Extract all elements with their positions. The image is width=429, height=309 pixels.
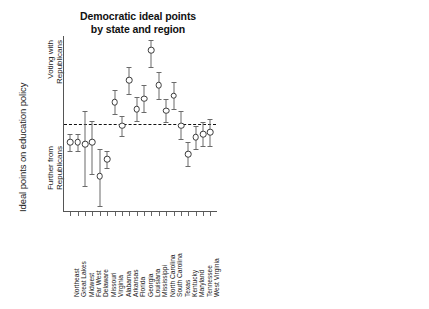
error-bar-cap-top [112, 90, 117, 91]
point-marker [170, 92, 177, 99]
error-bar-cap-bottom [178, 139, 183, 140]
error-bar-cap-bottom [156, 99, 161, 100]
x-axis-label-midwest: Midwest [88, 273, 95, 297]
y-axis-label: Ideal points on education policy [18, 83, 27, 212]
error-bar-cap-top [201, 122, 206, 123]
point-marker [207, 129, 214, 136]
point-marker [89, 139, 96, 146]
x-axis-label-florida: Florida [139, 277, 146, 297]
error-bar-cap-top [156, 72, 161, 73]
x-axis-tick [70, 212, 71, 216]
error-bar-cap-bottom [119, 136, 124, 137]
right-chart-panel: Probability of being pivotal in Senate S… [228, 0, 429, 309]
point-marker [119, 122, 126, 129]
error-bar-cap-bottom [105, 168, 110, 169]
point-marker [185, 151, 192, 158]
error-bar-cap-bottom [201, 146, 206, 147]
error-bar-cap-bottom [164, 122, 169, 123]
error-bar-cap-bottom [171, 109, 176, 110]
error-bar-cap-top [178, 111, 183, 112]
point-marker [74, 139, 81, 146]
x-axis-tick [210, 212, 211, 216]
error-bar-cap-top [90, 121, 95, 122]
x-axis-tick [181, 212, 182, 216]
x-axis-label-arkansas: Arkansas [132, 270, 139, 298]
x-axis-tick [107, 212, 108, 216]
error-bar-cap-bottom [208, 146, 213, 147]
error-bar-cap-bottom [127, 94, 132, 95]
y-axis-caption-bottom-line1: Further from [46, 146, 55, 190]
x-axis-tick [166, 212, 167, 216]
x-axis-label-kentucky: Kentucky [191, 270, 198, 297]
left-chart-plot-area [64, 36, 216, 212]
left-chart-panel: Democratic ideal points by state and reg… [0, 0, 228, 309]
figure-root: Democratic ideal points by state and reg… [0, 0, 429, 309]
x-axis-tick [196, 212, 197, 216]
x-axis-label-louisiana: Louisiana [154, 269, 161, 297]
x-axis-tick [144, 212, 145, 216]
point-marker [200, 131, 207, 138]
x-axis-label-tennessee: Tennessee [206, 265, 213, 297]
x-axis-label-south-carolina: South Carolina [176, 253, 183, 297]
error-bar-cap-bottom [142, 112, 147, 113]
error-bar-cap-top [193, 126, 198, 127]
x-axis-label-alabama: Alabama [125, 271, 132, 297]
error-bar-cap-bottom [97, 206, 102, 207]
x-axis-tick [174, 212, 175, 216]
x-axis-label-west-virginia: West Virginia [213, 258, 220, 297]
x-axis-tick [92, 212, 93, 216]
error-bar-cap-bottom [68, 151, 73, 152]
x-axis-label-missouri: Missouri [110, 272, 117, 297]
x-axis-label-texas: Texas [184, 280, 191, 297]
error-bar [85, 111, 86, 186]
x-axis-label-north-carolina: North Carolina [169, 254, 176, 297]
x-axis-tick [203, 212, 204, 216]
x-axis-tick [159, 212, 160, 216]
error-bar-cap-bottom [186, 166, 191, 167]
x-axis-tick [137, 212, 138, 216]
error-bar-cap-bottom [83, 186, 88, 187]
point-marker [96, 173, 103, 180]
point-marker [111, 99, 118, 106]
error-bar-cap-top [75, 134, 80, 135]
point-marker [148, 47, 155, 54]
left-chart-title-line2: by state and region [62, 23, 214, 36]
point-marker [133, 106, 140, 113]
y-axis-caption-top: Voting with Republicans [46, 40, 64, 84]
error-bar-cap-bottom [75, 151, 80, 152]
x-axis-label-maryland: Maryland [198, 270, 205, 297]
error-bar-cap-top [127, 67, 132, 68]
error-bar-cap-top [68, 134, 73, 135]
point-marker [67, 139, 74, 146]
point-marker [126, 77, 133, 84]
error-bar-cap-bottom [134, 121, 139, 122]
point-marker [156, 82, 163, 89]
error-bar-cap-top [186, 142, 191, 143]
error-bar-cap-top [164, 99, 169, 100]
left-chart-title: Democratic ideal points by state and reg… [62, 10, 214, 35]
error-bar [151, 40, 152, 67]
x-axis-tick [151, 212, 152, 216]
point-marker [141, 96, 148, 103]
error-bar-cap-top [149, 40, 154, 41]
y-axis-caption-top-line1: Voting with [46, 40, 55, 84]
point-marker [163, 107, 170, 114]
y-axis-caption-bottom: Further from Republicans [46, 146, 64, 190]
error-bar-cap-top [105, 151, 110, 152]
point-marker [82, 141, 89, 148]
error-bar [92, 121, 93, 175]
x-axis-label-georgia: Georgia [147, 274, 154, 297]
point-marker [192, 134, 199, 141]
point-marker [104, 156, 111, 163]
error-bar-cap-bottom [112, 114, 117, 115]
x-axis-tick [78, 212, 79, 216]
x-axis-tick [115, 212, 116, 216]
error-bar-cap-top [208, 119, 213, 120]
x-axis-label-virginia: Virginia [117, 275, 124, 297]
x-axis-label-delaware: Delaware [102, 269, 109, 297]
error-bar-cap-top [97, 149, 102, 150]
x-axis-tick [188, 212, 189, 216]
error-bar-cap-top [142, 85, 147, 86]
error-bar-cap-top [134, 97, 139, 98]
x-axis-label-far-west: Far West [95, 270, 102, 297]
